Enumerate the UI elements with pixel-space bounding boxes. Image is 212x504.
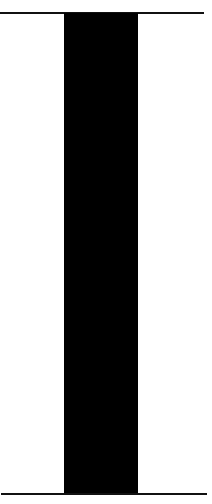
bottom-horizontal-line	[1, 493, 207, 495]
vertical-black-bar	[64, 13, 138, 494]
